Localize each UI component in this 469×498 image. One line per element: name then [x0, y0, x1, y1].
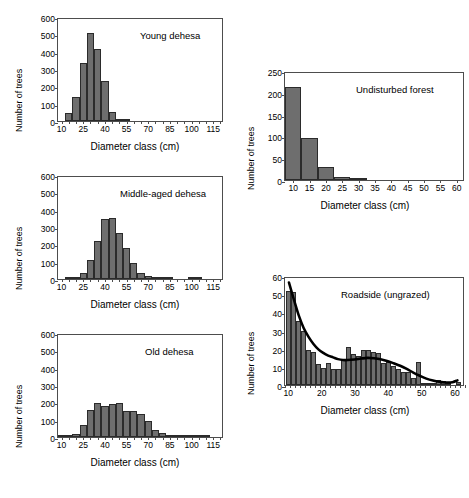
x-tick-mark [62, 121, 63, 124]
x-tick-mark [206, 437, 207, 440]
x-tick-mark [69, 121, 70, 124]
x-tick-mark [380, 385, 381, 388]
y-axis-label: Number of trees [14, 69, 24, 132]
x-tick-mark [213, 279, 214, 282]
x-tick-mark [213, 437, 214, 440]
x-tick-mark [355, 385, 356, 388]
x-tick-mark [155, 437, 156, 440]
x-axis-label: Diameter class (cm) [260, 405, 469, 416]
trend-curve [58, 335, 222, 437]
y-tick-mark [55, 54, 58, 55]
y-tick-mark [55, 352, 58, 353]
panel-title: Young dehesa [140, 30, 200, 41]
figure-header-remnant [60, 0, 440, 9]
x-tick-mark [345, 385, 346, 388]
x-tick-mark [335, 385, 336, 388]
x-tick-mark [213, 121, 214, 124]
x-tick-mark [435, 385, 436, 388]
x-tick-mark [98, 121, 99, 124]
x-tick-mark [62, 279, 63, 282]
y-tick-mark [55, 404, 58, 405]
x-tick-mark [192, 121, 193, 124]
x-tick-mark [420, 385, 421, 388]
x-tick-mark [163, 437, 164, 440]
x-tick-mark [90, 437, 91, 440]
x-tick-mark [163, 121, 164, 124]
y-tick-mark [55, 106, 58, 107]
x-tick-mark [98, 279, 99, 282]
x-axis-label: Diameter class (cm) [260, 200, 469, 211]
x-tick-mark [220, 437, 221, 440]
x-tick-mark [325, 385, 326, 388]
x-tick-mark [310, 385, 311, 388]
x-tick-mark [330, 385, 331, 388]
panel-title: Roadside (ungrazed) [341, 289, 430, 300]
x-tick-mark [310, 180, 311, 183]
x-tick-mark [295, 385, 296, 388]
x-tick-mark [112, 437, 113, 440]
x-tick-mark [62, 437, 63, 440]
x-tick-mark [119, 121, 120, 124]
x-tick-mark [410, 385, 411, 388]
x-tick-mark [365, 385, 366, 388]
x-tick-mark [192, 437, 193, 440]
x-tick-mark [315, 385, 316, 388]
y-tick-mark [55, 88, 58, 89]
x-tick-mark [184, 279, 185, 282]
x-tick-mark [134, 121, 135, 124]
x-tick-mark [450, 385, 451, 388]
x-axis-label: Diameter class (cm) [30, 457, 240, 468]
x-axis-label: Diameter class (cm) [30, 299, 240, 310]
x-tick-mark [170, 437, 171, 440]
x-tick-mark [199, 437, 200, 440]
x-tick-mark [300, 385, 301, 388]
y-tick-mark [282, 73, 285, 74]
x-tick-mark [390, 385, 391, 388]
y-axis-label: Number of trees [14, 227, 24, 290]
x-tick-mark [170, 121, 171, 124]
x-tick-mark [370, 385, 371, 388]
plot-area: 0100200300400500600102540557085100115 [57, 334, 223, 438]
y-axis-label: Number of trees [246, 332, 256, 395]
x-tick-mark [206, 279, 207, 282]
x-tick-mark [457, 180, 458, 183]
y-tick-mark [282, 314, 285, 315]
x-tick-mark [98, 437, 99, 440]
x-tick-mark [69, 279, 70, 282]
x-tick-mark [342, 180, 343, 183]
x-tick-mark [375, 180, 376, 183]
x-tick-mark [395, 385, 396, 388]
x-tick-mark [134, 437, 135, 440]
x-tick-mark [415, 385, 416, 388]
y-tick-mark [55, 264, 58, 265]
x-tick-mark [105, 437, 106, 440]
x-tick-mark [285, 385, 286, 388]
x-tick-mark [155, 279, 156, 282]
x-tick-mark [170, 279, 171, 282]
y-tick-mark [282, 138, 285, 139]
x-tick-mark [425, 385, 426, 388]
x-tick-mark [90, 121, 91, 124]
x-tick-mark [405, 385, 406, 388]
x-tick-mark [206, 121, 207, 124]
panel-title: Middle-aged dehesa [120, 188, 206, 199]
x-tick-mark [141, 279, 142, 282]
y-tick-mark [282, 296, 285, 297]
y-tick-mark [55, 194, 58, 195]
y-tick-mark [55, 177, 58, 178]
x-tick-mark [76, 279, 77, 282]
x-tick-mark [127, 279, 128, 282]
x-tick-mark [400, 385, 401, 388]
x-tick-mark [177, 437, 178, 440]
panel-undisturbed-forest: Number of trees 050100150200250101520253… [236, 68, 469, 213]
x-tick-mark [105, 121, 106, 124]
y-tick-mark [282, 333, 285, 334]
x-tick-mark [119, 279, 120, 282]
x-tick-mark [465, 385, 466, 388]
x-tick-mark [155, 121, 156, 124]
x-tick-mark [184, 121, 185, 124]
y-tick-mark [282, 95, 285, 96]
panel-middle-aged-dehesa: Number of trees 010020030040050060010254… [0, 172, 228, 312]
x-tick-mark [148, 279, 149, 282]
x-tick-mark [293, 180, 294, 183]
